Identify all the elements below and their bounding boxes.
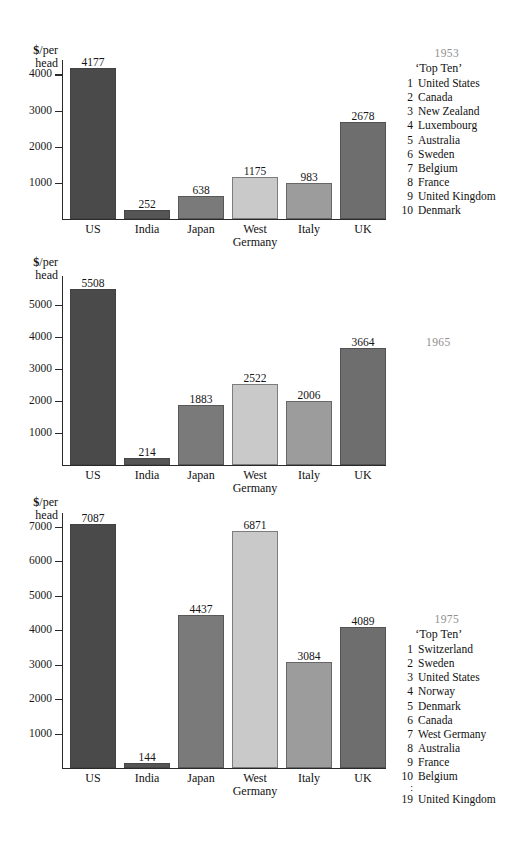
legend-entry-name: Canada xyxy=(418,713,452,727)
legend-entry-name: France xyxy=(418,175,449,189)
legend-entry-rank: 10 xyxy=(398,203,413,217)
legend-entry: 3United States xyxy=(398,670,496,684)
legend-entry-rank: 5 xyxy=(398,699,413,713)
bar-value-label: 2678 xyxy=(352,110,375,122)
legend-entry: 3New Zealand xyxy=(398,104,496,118)
legend-entry: 5Denmark xyxy=(398,699,496,713)
legend-entry-rank: 10 xyxy=(398,769,413,783)
legend-entry-name: Australia xyxy=(418,741,460,755)
legend-entry-name: Belgium xyxy=(418,769,458,783)
bar-value-label: 144 xyxy=(138,751,155,763)
legend-entry-name: Luxembourg xyxy=(418,118,477,132)
y-tick-label: 4000 xyxy=(29,328,52,345)
legend-entry-rank: 7 xyxy=(398,161,413,175)
bar: 214 xyxy=(124,458,170,465)
bar-value-label: 983 xyxy=(300,171,317,183)
legend-entry: 5Australia xyxy=(398,133,496,147)
bar: 4177 xyxy=(70,68,116,219)
legend-entry-rank: 2 xyxy=(398,656,413,670)
legend-entry: 2Sweden xyxy=(398,656,496,670)
y-tick: 4000 xyxy=(55,337,62,338)
bar: 1883 xyxy=(178,405,224,465)
y-axis-line xyxy=(62,60,63,219)
bar-value-label: 2006 xyxy=(298,389,321,401)
y-tick-label: 1000 xyxy=(29,424,52,441)
legend-entry-rank: 8 xyxy=(398,175,413,189)
category-label: West Germany xyxy=(233,772,278,798)
bar-value-label: 6871 xyxy=(244,519,267,531)
category-label: India xyxy=(135,223,160,236)
category-label: Japan xyxy=(187,772,214,785)
bar: 2522 xyxy=(232,384,278,465)
bar: 252 xyxy=(124,210,170,219)
legend-entry: 7West Germany xyxy=(398,727,496,741)
y-tick: 5000 xyxy=(55,305,62,306)
legend-entry-name: United Kingdom xyxy=(418,189,496,203)
y-tick: 1000 xyxy=(55,183,62,184)
legend-entry: 7Belgium xyxy=(398,161,496,175)
legend-1965: 1965 xyxy=(426,336,451,348)
legend-entry: 19United Kingdom xyxy=(398,792,496,806)
legend-entry-name: United States xyxy=(418,670,480,684)
bar-value-label: 5508 xyxy=(82,277,105,289)
category-label: UK xyxy=(354,469,371,482)
bar-value-label: 214 xyxy=(138,446,155,458)
legend-entry-rank: 5 xyxy=(398,133,413,147)
legend-entry-rank: 4 xyxy=(398,118,413,132)
legend-entry-rank: : xyxy=(398,783,413,792)
legend-entry: 1Switzerland xyxy=(398,642,496,656)
legend-entry-name: Sweden xyxy=(418,147,454,161)
bar: 3084 xyxy=(286,662,332,768)
category-label: Italy xyxy=(298,223,320,236)
y-tick-label: 5000 xyxy=(29,296,52,313)
bar: 144 xyxy=(124,763,170,768)
bar: 6871 xyxy=(232,531,278,768)
y-axis-line xyxy=(62,513,63,768)
y-tick-label: 7000 xyxy=(29,518,52,535)
legend-entry: 6Sweden xyxy=(398,147,496,161)
y-tick-label: 2000 xyxy=(29,690,52,707)
x-axis-line xyxy=(62,768,386,769)
y-tick: 4000 xyxy=(55,74,62,75)
y-tick: 1000 xyxy=(55,734,62,735)
y-tick-label: 3000 xyxy=(29,102,52,119)
bar: 5508 xyxy=(70,289,116,465)
bar-value-label: 3084 xyxy=(298,650,321,662)
y-tick: 2000 xyxy=(55,147,62,148)
legend-entry-name: United Kingdom xyxy=(418,792,496,806)
bar-value-label: 4437 xyxy=(190,603,213,615)
y-tick-label: 3000 xyxy=(29,656,52,673)
bar: 1175 xyxy=(232,177,278,219)
category-label: West Germany xyxy=(233,469,278,495)
legend-entry-rank: 6 xyxy=(398,147,413,161)
bar: 2678 xyxy=(340,122,386,219)
legend-entry-name: France xyxy=(418,755,449,769)
legend-1953: 1953‘Top Ten’1United States2Canada3New Z… xyxy=(398,46,496,217)
category-label: UK xyxy=(354,772,371,785)
legend-entry: 10Denmark xyxy=(398,203,496,217)
y-tick: 5000 xyxy=(55,596,62,597)
y-tick: 2000 xyxy=(55,401,62,402)
legend-entry: 10Belgium xyxy=(398,769,496,783)
bar: 3664 xyxy=(340,348,386,465)
legend-entry-rank: 4 xyxy=(398,684,413,698)
y-tick: 3000 xyxy=(55,111,62,112)
bar: 2006 xyxy=(286,401,332,465)
legend-entry-rank: 2 xyxy=(398,90,413,104)
category-label: UK xyxy=(354,223,371,236)
bar: 4089 xyxy=(340,627,386,768)
category-label: India xyxy=(135,469,160,482)
legend-entry: 4Luxembourg xyxy=(398,118,496,132)
plot-area-1953: 10002000300040004177US252India638Japan11… xyxy=(62,60,386,219)
x-axis-line xyxy=(62,219,386,220)
category-label: US xyxy=(85,772,100,785)
bar-value-label: 1175 xyxy=(244,165,267,177)
legend-entry: 8France xyxy=(398,175,496,189)
category-label: Japan xyxy=(187,469,214,482)
y-tick: 1000 xyxy=(55,433,62,434)
legend-entry-name: Denmark xyxy=(418,699,461,713)
y-tick-label: 1000 xyxy=(29,174,52,191)
legend-entry-name: Norway xyxy=(418,684,455,698)
legend-entry-name: Belgium xyxy=(418,161,458,175)
legend-entry-rank: 9 xyxy=(398,755,413,769)
